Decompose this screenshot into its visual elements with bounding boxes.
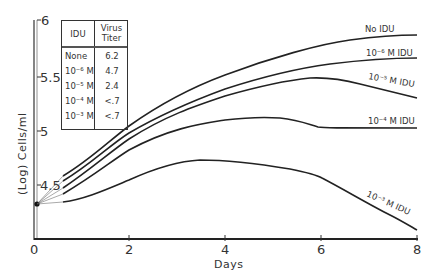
table-header: IDU Virus Titer: [62, 21, 127, 48]
header-titer: Titer: [95, 33, 128, 43]
label-1e-6: 10⁻⁶ M IDU: [366, 48, 413, 58]
y-tick-label-6: 6: [41, 13, 49, 28]
y-tick-label-5: 5: [40, 124, 48, 139]
label-1e-4: 10⁻⁴ M IDU: [368, 116, 415, 126]
x-tick-label-0: 0: [30, 242, 38, 257]
table-row: 10⁻³ M<.7: [62, 111, 127, 126]
label-1e-3: 10⁻³ M IDU: [365, 189, 412, 217]
cell-idu: None: [65, 51, 94, 61]
cell-idu: 10⁻³ M: [65, 111, 94, 121]
cell-idu: 10⁻⁵ M: [65, 81, 94, 91]
cell-idu: 10⁻⁴ M: [65, 96, 94, 106]
table-row: 10⁻⁶ M4.7: [62, 66, 127, 81]
header-idu: IDU: [62, 29, 94, 39]
y-tick-label-5-5: 5.5: [40, 70, 61, 85]
x-tick-label-6: 6: [317, 242, 325, 257]
table-row: 10⁻⁵ M2.4: [62, 81, 127, 96]
table-row: 10⁻⁴ M<.7: [62, 96, 127, 111]
header-virus-titer: Virus Titer: [95, 23, 128, 43]
label-no-idu: No IDU: [365, 24, 395, 34]
x-tick-label-8: 8: [413, 242, 421, 257]
x-axis-title: Days: [214, 258, 243, 271]
label-1e-5: 10⁻⁵ M IDU: [368, 71, 416, 89]
table-body: None6.2 10⁻⁶ M4.7 10⁻⁵ M2.4 10⁻⁴ M<.7 10…: [62, 51, 127, 126]
cell-idu: 10⁻⁶ M: [65, 66, 94, 76]
cell-titer: 6.2: [98, 51, 126, 61]
x-tick-label-2: 2: [125, 242, 133, 257]
table-row: None6.2: [62, 51, 127, 66]
curve-1e-3: [63, 160, 417, 230]
cell-titer: <.7: [98, 96, 126, 106]
x-tick-label-4: 4: [221, 242, 229, 257]
cell-titer: <.7: [98, 111, 126, 121]
header-virus: Virus: [95, 23, 128, 33]
cell-titer: 4.7: [98, 66, 126, 76]
y-axis-title: (Log) Cells/ml: [16, 113, 29, 196]
virus-titer-table: IDU Virus Titer None6.2 10⁻⁶ M4.7 10⁻⁵ M…: [61, 20, 128, 130]
cell-titer: 2.4: [98, 81, 126, 91]
